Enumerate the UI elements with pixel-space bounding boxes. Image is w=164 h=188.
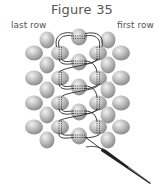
figure-35: Figure 35 last row first row [0,0,164,188]
needle [85,137,151,184]
beadwork-diagram [0,0,164,188]
